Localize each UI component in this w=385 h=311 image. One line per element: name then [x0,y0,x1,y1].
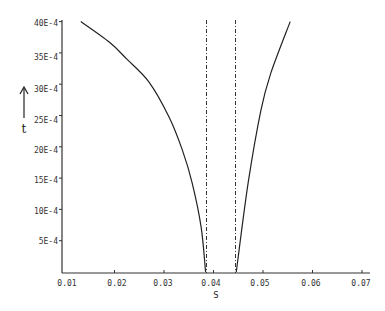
up-arrow-icon [20,87,28,118]
x-axis-label: S [213,290,218,300]
y-tick-label: 35E-4 [34,53,58,62]
x-tick-label: 0.01 [57,279,76,288]
x-tick-label: 0.06 [301,279,320,288]
y-tick-label: 30E-4 [34,85,58,94]
y-tick-label: 20E-4 [34,146,58,155]
chart: 5E-4 10E-4 15E-4 20E-4 25E-4 30E-4 35E-4… [0,0,385,311]
y-axis-label: t [20,87,28,136]
y-tick-label: 40E-4 [34,19,58,28]
x-tick-labels: 0.01 0.02 0.03 0.04 0.05 0.06 0.07 [57,279,370,288]
x-tick-label: 0.04 [201,279,220,288]
x-tick-label: 0.03 [153,279,172,288]
y-tick-labels: 5E-4 10E-4 15E-4 20E-4 25E-4 30E-4 35E-4… [34,19,58,246]
y-tick-label: 10E-4 [34,207,58,216]
y-axis-label-text: t [22,122,27,136]
y-axis [59,20,62,273]
y-tick-label: 15E-4 [34,176,58,185]
x-tick-label: 0.02 [107,279,126,288]
x-tick-label: 0.07 [351,279,370,288]
y-tick-label: 25E-4 [34,116,58,125]
x-tick-label: 0.05 [250,279,269,288]
x-axis [62,270,370,273]
left-branch-curve [81,22,206,272]
right-branch-curve [236,22,290,272]
y-tick-label: 5E-4 [39,237,58,246]
